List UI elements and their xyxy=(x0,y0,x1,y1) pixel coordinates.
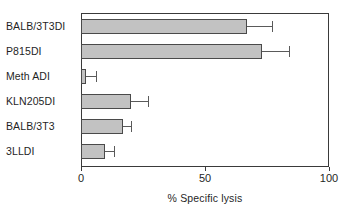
x-tick-label-0: 0 xyxy=(78,172,84,185)
x-axis-ticks: 0 50 100 xyxy=(0,167,350,187)
error-bar-line-2 xyxy=(86,76,96,77)
x-tick-mark-1 xyxy=(205,167,206,171)
y-axis-label-2: Meth ADI xyxy=(0,69,76,84)
error-bar-line-3 xyxy=(131,101,148,102)
error-bar-cap-5 xyxy=(114,146,115,157)
error-bar-cap-0 xyxy=(272,21,273,32)
y-axis-label-1: P815DI xyxy=(0,44,76,59)
bar-0 xyxy=(81,19,247,34)
error-bar-cap-4 xyxy=(131,121,132,132)
error-bar-line-4 xyxy=(123,126,130,127)
error-bar-cap-3 xyxy=(148,96,149,107)
bar-1 xyxy=(81,44,262,59)
bar-5 xyxy=(81,144,105,159)
y-axis-label-4: BALB/3T3 xyxy=(0,119,76,134)
x-tick-mark-0 xyxy=(81,167,82,171)
error-bar-cap-2 xyxy=(96,71,97,82)
y-axis-label-5: 3LLDI xyxy=(0,144,76,159)
x-tick-label-1: 50 xyxy=(199,172,211,185)
x-axis-title: % Specific lysis xyxy=(81,192,329,205)
bar-3 xyxy=(81,94,131,109)
error-bar-cap-1 xyxy=(289,46,290,57)
x-tick-mark-2 xyxy=(329,167,330,171)
bars-layer xyxy=(81,13,329,167)
error-bar-line-5 xyxy=(105,151,115,152)
bar-4 xyxy=(81,119,123,134)
x-tick-label-2: 100 xyxy=(320,172,338,185)
error-bar-line-0 xyxy=(247,26,272,27)
y-axis-category-labels: BALB/3T3DI P815DI Meth ADI KLN205DI BALB… xyxy=(0,13,76,167)
bar-chart: BALB/3T3DI P815DI Meth ADI KLN205DI BALB… xyxy=(0,0,350,217)
y-axis-label-3: KLN205DI xyxy=(0,94,76,109)
y-axis-label-0: BALB/3T3DI xyxy=(0,19,76,34)
error-bar-line-1 xyxy=(262,51,289,52)
